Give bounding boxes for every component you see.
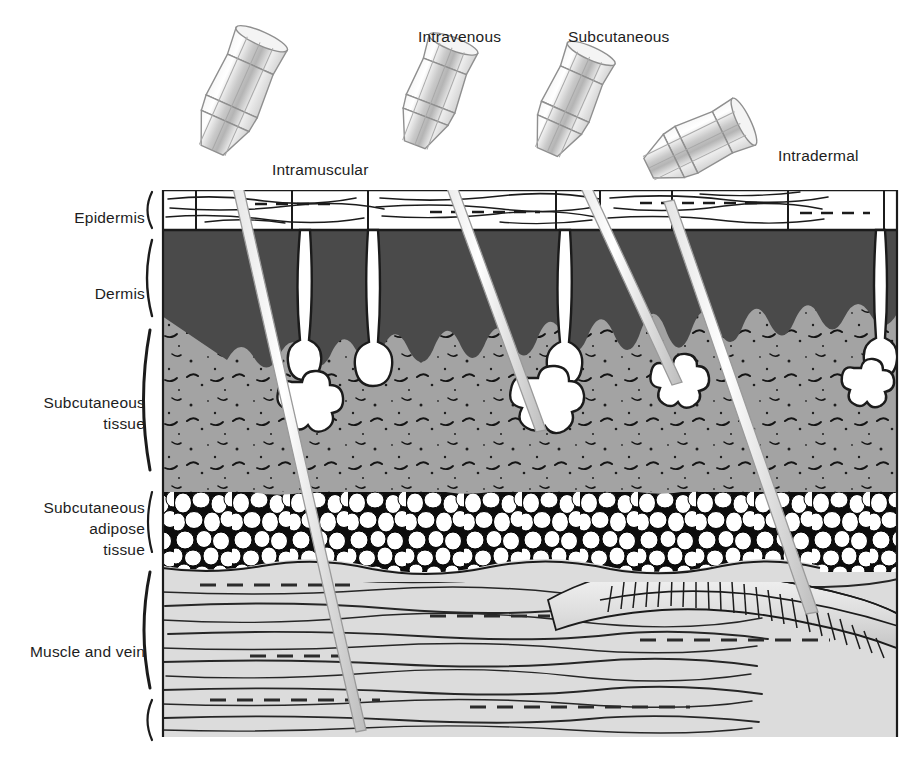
bracket-adipose (148, 492, 152, 552)
label-adipose-line1: Subcutaneous (43, 497, 145, 518)
label-subcutaneous: Subcutaneous (568, 26, 670, 47)
label-epidermis: Epidermis (74, 207, 145, 228)
label-dermis: Dermis (95, 283, 145, 304)
needle-hub-intradermal (637, 95, 761, 191)
label-adipose-line3: tissue (43, 539, 145, 560)
label-intramuscular: Intramuscular (272, 159, 369, 180)
bracket-epidermis (148, 192, 153, 228)
label-muscle-and-vein: Muscle and vein (30, 641, 145, 662)
bracket-muscle-lower (148, 700, 153, 740)
bracket-dermis (147, 240, 152, 316)
label-subcutaneous-tissue: Subcutaneous tissue (43, 392, 145, 434)
bracket-muscle (144, 572, 150, 688)
label-adipose-line2: adipose (43, 518, 145, 539)
tissue-layers (62, 148, 902, 740)
needle-hub-intramuscular (187, 21, 291, 162)
needle-hub-intravenous (391, 29, 481, 155)
label-intravenous: Intravenous (418, 26, 501, 47)
needle-hub-subcutaneous (524, 37, 618, 163)
label-intradermal: Intradermal (778, 145, 859, 166)
label-subcutaneous-adipose-tissue: Subcutaneous adipose tissue (43, 497, 145, 560)
figure-canvas: Epidermis Dermis Subcutaneous tissue Sub… (0, 0, 910, 773)
label-subcutaneous-tissue-line2: tissue (43, 413, 145, 434)
label-subcutaneous-tissue-line1: Subcutaneous (43, 392, 145, 413)
